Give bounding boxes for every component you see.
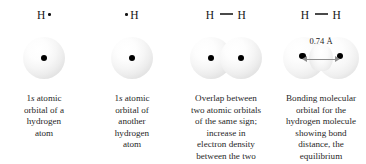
formula-h-bond-h-molecule: HH <box>301 0 341 30</box>
bond-line-icon <box>220 13 233 14</box>
orbital-art-single-2 <box>88 30 176 86</box>
electron-dot-icon <box>125 13 128 16</box>
caption-panel-2: 1s atomic orbital of another hydrogen at… <box>88 86 176 151</box>
atom-label-h-left: H <box>301 9 310 21</box>
caption-line: two atomic orbitals <box>176 105 276 117</box>
panel-orbital-overlap: HH Overlap between two atomic orbitals o… <box>176 0 276 164</box>
caption-line: 1s atomic <box>0 93 88 105</box>
caption-line: distance, the <box>276 139 366 151</box>
caption-line: 1s atomic <box>88 93 176 105</box>
orbital-art-molecular: 0.74 Å <box>276 30 366 86</box>
panel-bonding-molecular-orbital: HH 0.74 Å Bonding molecular orbital for … <box>276 0 366 164</box>
caption-line: increase in <box>176 128 276 140</box>
bond-distance-label: 0.74 Å <box>283 36 359 46</box>
caption-line: electron density <box>176 139 276 151</box>
orbital-art-single-1 <box>0 30 88 86</box>
bond-distance-arrow-icon <box>302 56 340 63</box>
formula-h-dot: H <box>37 0 51 30</box>
caption-line: atom <box>88 139 176 151</box>
caption-line: orbital of <box>88 105 176 117</box>
atom-label-h: H <box>130 9 139 21</box>
atom-label-h: H <box>37 9 46 21</box>
caption-line: hydrogen molecule <box>276 116 366 128</box>
caption-line: hydrogen <box>0 116 88 128</box>
caption-panel-3: Overlap between two atomic orbitals of t… <box>176 86 276 163</box>
atom-label-h-right: H <box>333 9 342 21</box>
s-orbital-sphere <box>111 37 153 79</box>
orbital-overlap-figure: H 1s atomic orbital of a hydrogen atom H… <box>0 0 366 164</box>
arrow-head-right-icon <box>335 56 340 62</box>
s-orbital-sphere <box>23 37 65 79</box>
caption-panel-1: 1s atomic orbital of a hydrogen atom <box>0 86 88 139</box>
caption-line: of the same sign; <box>176 116 276 128</box>
caption-panel-4: Bonding molecular orbital for the hydrog… <box>276 86 366 163</box>
caption-line: Bonding molecular <box>276 93 366 105</box>
arrow-shaft <box>305 59 337 60</box>
formula-dot-h: H <box>125 0 139 30</box>
atom-label-h-right: H <box>238 9 247 21</box>
bond-line-icon <box>315 13 328 14</box>
caption-line: hydrogen <box>88 128 176 140</box>
bonding-molecular-orbital-shape: 0.74 Å <box>283 35 359 81</box>
caption-line: orbital for the <box>276 105 366 117</box>
caption-line: between the two <box>176 151 276 163</box>
caption-line: another <box>88 116 176 128</box>
orbital-art-overlap <box>176 30 276 86</box>
caption-line: showing bond <box>276 128 366 140</box>
atom-label-h-left: H <box>206 9 215 21</box>
caption-line: orbital of a <box>0 105 88 117</box>
caption-line: atom <box>0 128 88 140</box>
electron-dot-icon <box>48 13 51 16</box>
caption-line: Overlap between <box>176 93 276 105</box>
s-orbital-sphere-right <box>220 37 262 79</box>
formula-h-bond-h-overlap: HH <box>206 0 246 30</box>
panel-hydrogen-atom-2: H 1s atomic orbital of another hydrogen … <box>88 0 176 164</box>
caption-line: equilibrium <box>276 151 366 163</box>
panel-hydrogen-atom-1: H 1s atomic orbital of a hydrogen atom <box>0 0 88 164</box>
overlapping-orbital-pair <box>190 37 262 79</box>
